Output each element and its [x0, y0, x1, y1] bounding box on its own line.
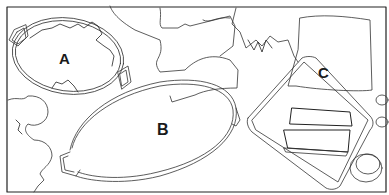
diagram-figure: A B C — [0, 0, 389, 195]
label-c: C — [318, 65, 329, 80]
small-bowls — [350, 95, 388, 182]
platter-b — [60, 80, 240, 181]
label-b: B — [157, 122, 169, 138]
board-c — [247, 16, 373, 189]
line-art — [0, 0, 389, 195]
label-a: A — [59, 51, 70, 66]
